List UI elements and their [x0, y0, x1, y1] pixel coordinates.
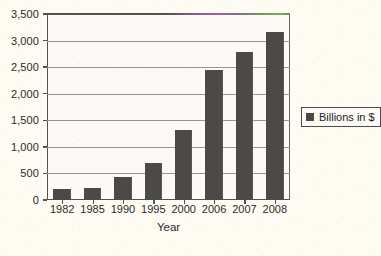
- bar-2008: [266, 32, 284, 200]
- legend-label-billions-in-usd: Billions in $: [319, 111, 375, 123]
- bar-2007: [236, 52, 254, 200]
- bar-1995: [145, 163, 163, 200]
- legend: Billions in $: [301, 107, 381, 127]
- bar-2000: [175, 130, 193, 200]
- bar-1982: [53, 189, 71, 200]
- bar-2006: [205, 70, 223, 200]
- legend-swatch-billions-in-usd: [306, 113, 314, 121]
- bar-1990: [114, 177, 132, 200]
- bar-1985: [84, 188, 102, 200]
